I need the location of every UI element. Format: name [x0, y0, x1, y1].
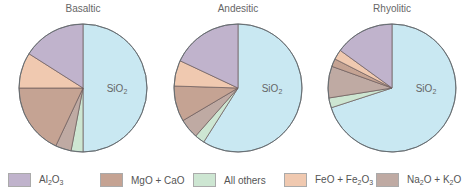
- pie-svg-andesitic: SiO2: [161, 0, 315, 160]
- legend-item-na2o-k2o: Na2O + K2O: [376, 172, 461, 188]
- legend-swatch-mgo-cao: [100, 173, 123, 187]
- legend-item-mgo-cao: MgO + CaO: [100, 172, 185, 188]
- legend-item-al2o3: Al2O3: [8, 172, 64, 188]
- pie-svg-rhyolitic: SiO2: [315, 0, 462, 160]
- legend: Al2O3 MgO + CaO All others FeO + Fe2O3 N…: [0, 172, 462, 194]
- pie-andesitic: Andesitic SiO2: [161, 0, 315, 160]
- legend-label-al2o3: Al2O3: [39, 174, 64, 186]
- legend-swatch-na2o-k2o: [376, 173, 399, 187]
- legend-label-mgo-cao: MgO + CaO: [131, 175, 185, 186]
- legend-swatch-all-others: [193, 173, 216, 187]
- pie-basaltic: Basaltic SiO2: [6, 0, 160, 160]
- legend-label-all-others: All others: [224, 175, 266, 186]
- legend-item-feo-fe2o3: FeO + Fe2O3: [284, 172, 373, 188]
- legend-item-all-others: All others: [193, 172, 266, 188]
- legend-swatch-feo-fe2o3: [284, 173, 307, 187]
- legend-swatch-al2o3: [8, 173, 31, 187]
- pie-svg-basaltic: SiO2: [6, 0, 160, 160]
- pie-rhyolitic: Rhyolitic SiO2: [315, 0, 462, 160]
- legend-label-na2o-k2o: Na2O + K2O: [407, 174, 461, 186]
- legend-label-feo-fe2o3: FeO + Fe2O3: [315, 174, 373, 186]
